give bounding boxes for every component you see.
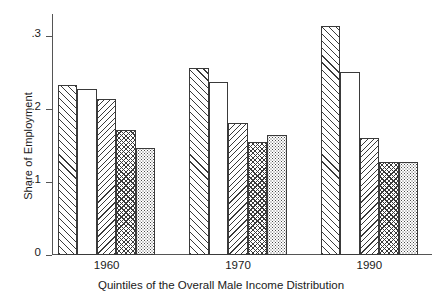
bar-1990-q3: [360, 138, 379, 255]
bar-1970-q4: [248, 142, 267, 255]
bar-1990-q1: [321, 26, 340, 255]
x-axis-group-labels: 196019701990: [52, 259, 432, 275]
y-tick-mark: [46, 255, 52, 256]
x-group-label-1960: 1960: [94, 259, 120, 271]
bar-1960-q2: [77, 89, 96, 255]
y-tick-label: .1: [31, 174, 41, 186]
plot-area: 0.1.2.3: [52, 14, 432, 255]
bar-1990-q4: [379, 162, 398, 255]
bars-container: [52, 14, 432, 255]
bar-1970-q5: [267, 135, 286, 255]
bar-1970-q1: [189, 68, 208, 255]
bar-1990-q5: [399, 162, 418, 255]
y-tick-label: .3: [31, 28, 41, 40]
y-axis-title: Share of Employment: [22, 46, 34, 246]
y-tick-label: .2: [31, 101, 41, 113]
y-tick-label: 0: [35, 247, 41, 259]
x-group-label-1970: 1970: [225, 259, 251, 271]
bar-1970-q2: [209, 82, 228, 255]
bar-1960-q5: [136, 148, 155, 255]
x-axis-title: Quintiles of the Overall Male Income Dis…: [0, 279, 442, 291]
bar-1970-q3: [228, 123, 247, 255]
bar-1960-q4: [116, 130, 135, 255]
bar-1990-q2: [340, 72, 359, 255]
bar-chart-figure: Share of Employment 0.1.2.3 196019701990…: [0, 0, 442, 300]
x-group-label-1990: 1990: [357, 259, 383, 271]
bar-1960-q1: [58, 85, 77, 255]
bar-1960-q3: [97, 99, 116, 255]
